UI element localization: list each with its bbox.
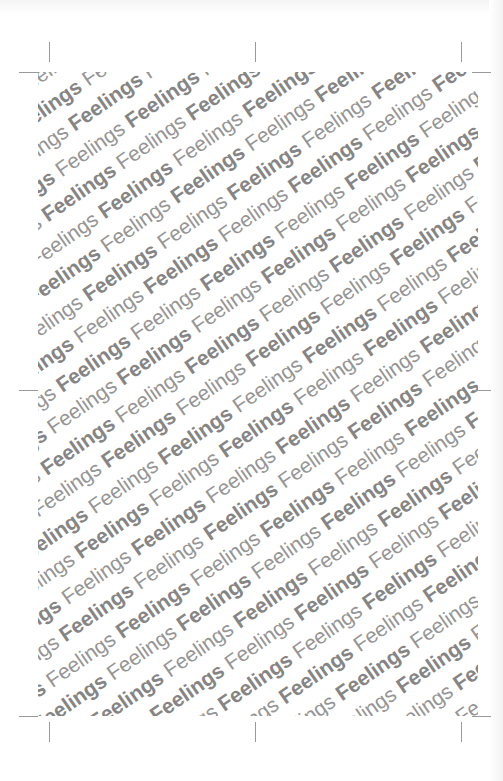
crop-mark-bottom-right-v: [461, 722, 462, 742]
crop-mark-bottom-right-h: [472, 716, 491, 717]
crop-mark-bottom-left-v: [49, 722, 50, 742]
crop-mark-bottom-left-h: [19, 716, 38, 717]
crop-mark-top-right-v: [461, 42, 462, 62]
crop-mark-top-center-v: [255, 42, 256, 62]
crop-mark-top-right-h: [472, 72, 491, 73]
top-shadow: [0, 0, 503, 14]
pattern-rotor: Feelings Feelings Feelings Feelings Feel…: [38, 72, 478, 716]
crop-mark-bottom-center-v: [255, 722, 256, 742]
page-edge-shadow: [489, 0, 503, 781]
crop-mark-top-left-h: [19, 72, 38, 73]
feelings-pattern-area: Feelings Feelings Feelings Feelings Feel…: [38, 72, 478, 716]
crop-mark-mid-right-h: [472, 390, 491, 391]
crop-mark-mid-left-h: [19, 390, 38, 391]
crop-mark-top-left-v: [49, 42, 50, 62]
